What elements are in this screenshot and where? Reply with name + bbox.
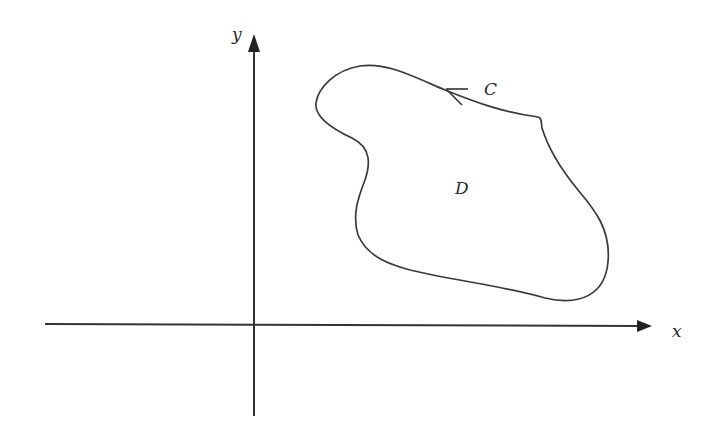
x-axis-arrow-icon: [637, 320, 652, 332]
x-axis: [45, 320, 652, 332]
y-axis: [248, 34, 260, 416]
x-axis-label: x: [672, 321, 682, 341]
curve-label: C: [484, 79, 497, 99]
region-label: D: [454, 178, 469, 198]
y-axis-arrow-icon: [248, 34, 260, 52]
y-axis-label: y: [231, 24, 242, 44]
diagram-canvas: x y C D: [0, 0, 717, 444]
